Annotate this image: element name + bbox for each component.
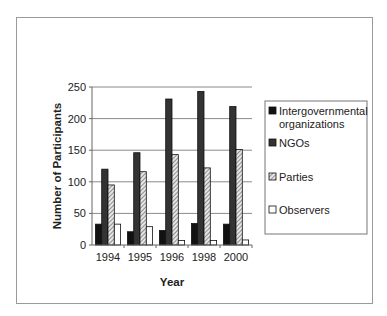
legend-swatch [269,206,276,213]
bar-parties-1998 [204,168,210,245]
x-tick-label: 1998 [192,251,216,263]
bar-observers-1995 [146,227,152,245]
bar-chart: 050100150200250 19941995199619982000 Yea… [0,0,387,316]
legend-swatch [269,173,276,180]
bar-intergovernmental-organizations-1996 [159,230,165,245]
bar-ngos-1998 [198,91,204,245]
legend-swatch [269,107,276,114]
y-tick-label: 100 [68,176,86,188]
x-axis-title: Year [160,276,185,288]
y-axis-ticks: 050100150200250 [68,81,92,251]
x-tick-label: 1996 [160,251,184,263]
bar-ngos-1994 [102,169,108,245]
x-tick-label: 2000 [224,251,248,263]
bar-parties-2000 [236,150,242,245]
y-tick-label: 150 [68,144,86,156]
bar-observers-1998 [210,241,216,245]
x-tick-label: 1994 [96,251,120,263]
legend-label: Parties [279,171,314,183]
bar-parties-1994 [108,185,114,245]
bar-intergovernmental-organizations-2000 [223,224,229,245]
legend-swatch [269,139,276,146]
bar-intergovernmental-organizations-1995 [127,232,133,245]
bar-observers-1994 [114,224,120,245]
bar-parties-1996 [172,155,178,245]
bars [95,91,248,245]
bar-ngos-1996 [166,99,172,245]
legend-label: organizations [279,118,345,130]
bar-observers-2000 [242,240,248,245]
legend-label: NGOs [279,137,310,149]
y-tick-label: 0 [80,239,86,251]
bar-intergovernmental-organizations-1998 [191,224,197,245]
x-axis-ticks: 19941995199619982000 [96,245,252,263]
bar-ngos-2000 [230,107,236,245]
bar-observers-1996 [178,241,184,245]
legend-label: Observers [279,204,330,216]
x-tick-label: 1995 [128,251,152,263]
bar-ngos-1995 [134,153,140,245]
y-tick-label: 200 [68,113,86,125]
legend-label: Intergovernmental [279,105,368,117]
legend-item-observers: Observers [269,204,330,216]
y-tick-label: 250 [68,81,86,93]
bar-intergovernmental-organizations-1994 [95,224,101,245]
legend: IntergovernmentalorganizationsNGOsPartie… [265,101,368,234]
y-axis-title: Number of Participants [51,103,63,230]
bar-parties-1995 [140,172,146,245]
y-tick-label: 50 [74,207,86,219]
